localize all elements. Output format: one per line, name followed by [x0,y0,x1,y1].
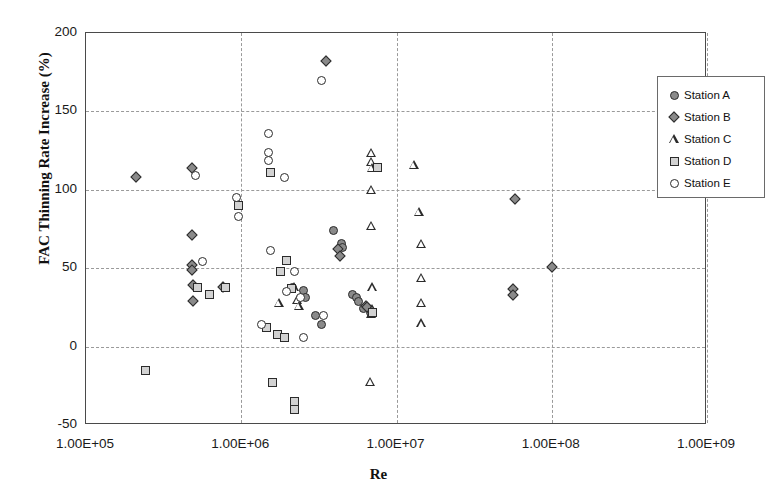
data-point [268,378,277,387]
data-point [276,267,285,276]
data-point [299,333,308,342]
data-point [186,230,197,241]
data-point [373,163,382,172]
data-point [546,261,557,272]
x-tick-label: 1.00E+08 [496,437,606,451]
data-point [366,148,376,157]
x-tick-label: 1.00E+07 [341,437,451,451]
gridline-horizontal [86,268,705,269]
gridline-vertical [552,33,553,423]
data-point [366,185,376,194]
data-point [266,168,275,177]
data-point [266,246,275,255]
gridline-horizontal [86,111,705,112]
legend-item-station-a[interactable]: Station A [667,84,764,106]
data-point [319,311,328,320]
data-point [290,405,299,414]
triangle-icon [667,132,681,146]
legend-item-label: Station D [684,155,731,167]
data-point [282,287,291,296]
data-point [198,257,207,266]
data-point [232,193,241,202]
y-axis-title: FAC Thinning Rate Increase (%) [36,9,53,309]
data-point [294,301,304,310]
data-point [366,221,376,230]
plot-area: Station AStation BStation CStation DStat… [85,32,706,424]
x-tick-label: 1.00E+05 [30,437,140,451]
data-point [509,194,520,205]
legend-item-station-c[interactable]: Station C [667,128,764,150]
gridline-horizontal [86,190,705,191]
data-point [416,273,426,282]
x-axis-title: Re [0,466,757,483]
data-point [141,366,150,375]
data-point [280,173,289,182]
y-tick-label: -50 [13,417,77,431]
square-icon [667,154,681,168]
data-point [365,377,375,386]
data-point [187,295,198,306]
gridline-vertical [397,33,398,423]
legend-item-label: Station B [684,111,731,123]
circle-open-icon [667,176,681,190]
data-point [317,320,326,329]
data-point [282,256,291,265]
data-point [317,76,326,85]
data-point [264,129,273,138]
legend-item-label: Station E [684,177,731,189]
data-point [416,298,426,307]
data-point [329,226,338,235]
y-tick-label: 0 [13,339,77,353]
data-point [274,298,284,307]
gridline-horizontal [86,347,705,348]
data-point [368,308,377,317]
legend-item-station-d[interactable]: Station D [667,150,764,172]
data-point [205,290,214,299]
data-point [416,239,426,248]
data-point [130,172,141,183]
legend: Station AStation BStation CStation DStat… [657,76,765,198]
data-point [193,283,202,292]
data-point [280,333,289,342]
data-point [221,283,230,292]
legend-item-station-e[interactable]: Station E [667,172,764,194]
legend-item-label: Station A [684,89,730,101]
data-point [290,267,299,276]
data-point [367,282,377,291]
gridline-vertical [241,33,242,423]
circle-filled-icon [667,88,681,102]
legend-item-station-b[interactable]: Station B [667,106,764,128]
legend-item-label: Station C [684,133,731,145]
diamond-icon [667,110,681,124]
data-point [416,318,426,327]
x-tick-label: 1.00E+09 [651,437,761,451]
data-point [191,171,200,180]
data-point [234,212,243,221]
data-point [320,56,331,67]
data-point [414,207,424,216]
x-tick-label: 1.00E+06 [185,437,295,451]
data-point [234,201,243,210]
data-point [264,156,273,165]
data-point [409,160,419,169]
